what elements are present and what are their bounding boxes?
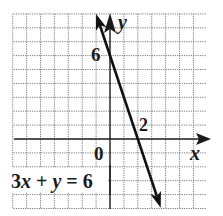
equation-coef: 3 xyxy=(11,170,21,192)
y-axis-label: y xyxy=(116,11,127,34)
coordinate-plane: 6 y 2 x 0 3x + y = 6 xyxy=(0,0,223,216)
x-intercept-label: 2 xyxy=(139,115,148,135)
equation-x: x xyxy=(20,170,31,192)
equation-plus: + xyxy=(31,170,52,192)
x-axis-label: x xyxy=(189,142,200,164)
y-intercept-label: 6 xyxy=(91,44,101,65)
equation-y: y xyxy=(50,170,61,193)
equation-label: 3x + y = 6 xyxy=(11,170,93,193)
equation-rhs: = 6 xyxy=(61,170,92,192)
origin-label: 0 xyxy=(94,143,104,164)
